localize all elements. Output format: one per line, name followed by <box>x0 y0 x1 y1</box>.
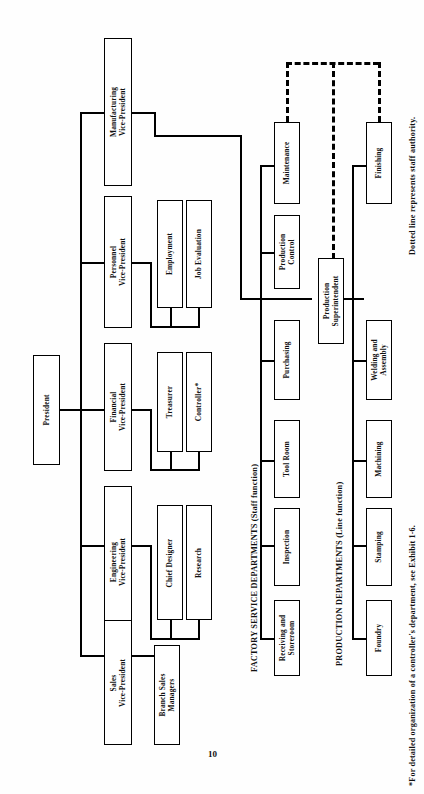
node-inspection[interactable]: Inspection <box>274 508 300 586</box>
node-maintenance[interactable]: Maintenance <box>274 122 300 204</box>
connector-president-stem <box>60 409 82 411</box>
node-welding-and-assembly-label: Welding and Assembly <box>370 339 389 381</box>
node-production-superintendent[interactable]: Production Superintendent <box>318 258 344 344</box>
node-production-control-label: Production Control <box>278 234 297 271</box>
connector-personnel-bus-bottom <box>150 326 200 328</box>
connector-spine-to-engineering-vp <box>80 545 104 547</box>
node-job-evaluation-label: Job Evaluation <box>194 229 203 279</box>
connector-vp-spine <box>80 112 82 657</box>
node-manufacturing-vp[interactable]: Manufacturing Vice-President <box>104 38 132 186</box>
node-financial-vp[interactable]: Financial Vice-President <box>104 343 132 471</box>
connector-spine-to-sales-vp <box>80 655 104 657</box>
dashed-link-superintendent <box>332 62 335 259</box>
node-job-evaluation[interactable]: Job Evaluation <box>186 200 212 308</box>
footnote: *For detailed organization of a controll… <box>408 525 417 786</box>
connector-spine-to-personnel-vp <box>80 262 104 264</box>
connector-employment-drop <box>170 308 172 328</box>
node-president[interactable]: President <box>33 355 60 465</box>
node-engineering-vp-label: Engineering Vice-President <box>109 538 128 586</box>
connector-factory-service-bus <box>260 165 262 640</box>
connector-personnel-stem <box>132 262 152 264</box>
connector-spine-to-manufacturing-vp <box>80 112 104 114</box>
connector-production-bus <box>352 165 354 640</box>
connector-manufacturing-stem <box>132 112 156 114</box>
node-inspection-label: Inspection <box>282 530 291 564</box>
node-employment-label: Employment <box>165 233 174 275</box>
node-machining[interactable]: Machining <box>366 420 392 498</box>
node-personnel-vp[interactable]: Personnel Vice-President <box>104 196 132 328</box>
connector-research-drop <box>198 620 200 640</box>
connector-manufacturing-elbow <box>154 112 156 137</box>
connector-job-evaluation-drop <box>198 308 200 328</box>
node-controller-label: Controller* <box>194 383 203 421</box>
org-chart-sheet: President Manufacturing Vice-President P… <box>0 0 424 794</box>
connector-engineering-bus <box>150 545 152 640</box>
node-sales-vp[interactable]: Sales Vice-President <box>104 620 132 745</box>
connector-sales-to-branch <box>132 655 154 657</box>
node-foundry[interactable]: Foundry <box>366 600 392 676</box>
node-finishing-label: Finishing <box>374 148 383 179</box>
node-tool-room[interactable]: Tool Room <box>274 420 300 498</box>
node-maintenance-label: Maintenance <box>282 142 291 185</box>
node-purchasing-label: Purchasing <box>282 341 291 378</box>
node-financial-vp-label: Financial Vice-President <box>109 383 128 431</box>
connector-manufacturing-run <box>154 135 242 137</box>
factory-service-departments-header: FACTORY SERVICE DEPARTMENTS (Staff funct… <box>250 464 259 672</box>
node-stamping[interactable]: Stamping <box>366 508 392 586</box>
connector-engineering-stem <box>132 545 152 547</box>
node-production-control[interactable]: Production Control <box>274 215 300 289</box>
node-welding-and-assembly[interactable]: Welding and Assembly <box>366 320 392 400</box>
connector-manufacturing-to-superintendent <box>240 298 312 300</box>
node-personnel-vp-label: Personnel Vice-President <box>109 238 128 286</box>
node-branch-sales-managers[interactable]: Branch Sales Managers <box>154 645 180 745</box>
node-engineering-vp[interactable]: Engineering Vice-President <box>104 486 132 638</box>
connector-financial-bus-bottom <box>150 469 200 471</box>
node-receiving-and-storeroom[interactable]: Receiving and Storeroom <box>274 600 300 676</box>
dashed-link-maintenance <box>286 62 289 122</box>
node-machining-label: Machining <box>374 441 383 476</box>
connector-engineering-bus-bottom <box>150 638 200 640</box>
node-chief-designer[interactable]: Chief Designer <box>157 505 183 620</box>
node-manufacturing-vp-label: Manufacturing Vice-President <box>109 87 128 137</box>
connector-financial-bus <box>150 409 152 471</box>
node-purchasing[interactable]: Purchasing <box>274 320 300 400</box>
connector-treasurer-drop <box>170 452 172 471</box>
node-sales-vp-label: Sales Vice-President <box>109 658 128 706</box>
node-stamping-label: Stamping <box>374 531 383 563</box>
node-foundry-label: Foundry <box>374 624 383 653</box>
node-controller[interactable]: Controller* <box>186 352 212 452</box>
node-employment[interactable]: Employment <box>157 200 183 308</box>
legend-note: Dotted line represents staff authority. <box>408 117 417 255</box>
dashed-link-finishing <box>378 62 381 122</box>
node-production-superintendent-label: Production Superintendent <box>322 276 341 327</box>
node-treasurer[interactable]: Treasurer <box>157 352 183 452</box>
connector-spine-to-financial-vp <box>80 409 104 411</box>
node-president-label: President <box>42 394 51 425</box>
page-number: 10 <box>208 749 217 759</box>
node-finishing[interactable]: Finishing <box>366 122 392 204</box>
production-departments-header: PRODUCTION DEPARTMENTS (Line function) <box>335 482 344 666</box>
connector-financial-stem <box>132 409 152 411</box>
node-research-label: Research <box>194 547 203 577</box>
connector-personnel-bus <box>150 262 152 328</box>
connector-manufacturing-drop <box>240 135 242 300</box>
connector-chief-designer-drop <box>170 620 172 640</box>
node-tool-room-label: Tool Room <box>282 441 291 477</box>
connector-controller-drop <box>198 452 200 471</box>
node-receiving-and-storeroom-label: Receiving and Storeroom <box>278 615 297 662</box>
node-research[interactable]: Research <box>186 505 212 620</box>
node-treasurer-label: Treasurer <box>165 386 174 419</box>
node-chief-designer-label: Chief Designer <box>165 538 174 587</box>
node-branch-sales-managers-label: Branch Sales Managers <box>158 673 177 716</box>
